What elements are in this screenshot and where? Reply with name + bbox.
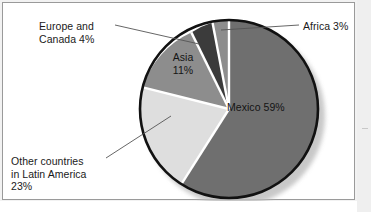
- slice-label-asia-line1: Asia: [173, 51, 194, 63]
- page-margin-tick: [362, 128, 368, 129]
- slice-label-other-line3: 23%: [11, 180, 32, 192]
- slice-label-europe-canada-line1: Europe and: [39, 20, 94, 32]
- figure-root: Europe andCanada 4% Africa 3% Other coun…: [0, 0, 371, 212]
- slice-label-europe-canada-line2: Canada 4%: [39, 33, 94, 45]
- slice-label-asia: Asia11%: [160, 51, 206, 76]
- slice-label-africa-text: Africa 3%: [303, 20, 348, 32]
- figure-frame: Europe andCanada 4% Africa 3% Other coun…: [2, 2, 355, 200]
- page-right-margin: [357, 0, 371, 212]
- slice-label-mexico-text: Mexico 59%: [227, 101, 285, 113]
- slice-label-other-latin-america: Other countriesin Latin America23%: [11, 155, 87, 193]
- slice-label-other-line1: Other countries: [11, 155, 84, 167]
- slice-label-asia-line2: 11%: [173, 64, 193, 76]
- page-bottom-margin: [0, 201, 357, 212]
- slice-label-africa: Africa 3%: [303, 20, 348, 33]
- slice-label-europe-canada: Europe andCanada 4%: [39, 20, 94, 45]
- slice-label-mexico: Mexico 59%: [227, 101, 285, 114]
- slice-label-other-line2: in Latin America: [11, 168, 87, 180]
